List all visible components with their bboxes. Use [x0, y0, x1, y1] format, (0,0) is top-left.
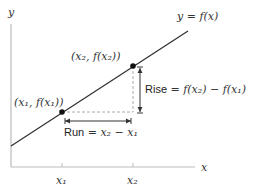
- run-label: Run = x₂ − x₁: [64, 126, 138, 139]
- slope-diagram: y x x₁ x₂ y = f(x) (x₁, f(x₁)) (x₂, f(x₂…: [0, 0, 258, 188]
- function-label: y = f(x): [176, 10, 218, 23]
- rise-expression: = f(x₂) − f(x₁): [167, 83, 246, 96]
- run-arrow: [65, 118, 131, 124]
- rise-label: Rise = f(x₂) − f(x₁): [145, 83, 246, 96]
- point-1-label: (x₁, f(x₁)): [14, 96, 63, 109]
- point-2-label: (x₂, f(x₂)): [71, 50, 120, 63]
- y-axis-label: y: [7, 6, 15, 19]
- point-2-marker: [130, 63, 136, 69]
- x1-tick-label: x₁: [56, 174, 67, 187]
- run-word: Run: [64, 126, 84, 138]
- run-expression: = x₂ − x₁: [84, 126, 138, 139]
- x2-tick-label: x₂: [127, 174, 138, 187]
- rise-arrow: [137, 67, 143, 113]
- rise-word: Rise: [145, 83, 167, 95]
- x-axis-label: x: [201, 161, 208, 174]
- point-1-marker: [59, 109, 65, 115]
